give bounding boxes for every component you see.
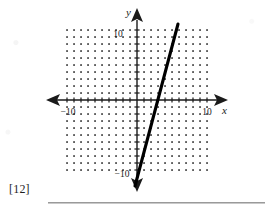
bottom-divider-rule (48, 202, 265, 204)
y-tick-label-top: 10 (113, 29, 123, 39)
y-tick-label-bottom: −10 (115, 169, 130, 179)
question-number: [12] (9, 182, 30, 196)
x-axis-label: x (221, 104, 227, 116)
worksheet-page: y x 10 −10 −10 10 [12] (0, 0, 265, 213)
graph-figure: y x 10 −10 −10 10 (42, 2, 232, 195)
y-axis-arrow-up (131, 8, 143, 22)
y-axis-label: y (125, 6, 131, 18)
x-tick-label-left: −10 (61, 107, 76, 117)
plotted-line (135, 24, 178, 186)
coordinate-plane-svg: y x 10 −10 −10 10 (42, 2, 232, 195)
x-tick-label-right: 10 (202, 107, 212, 117)
